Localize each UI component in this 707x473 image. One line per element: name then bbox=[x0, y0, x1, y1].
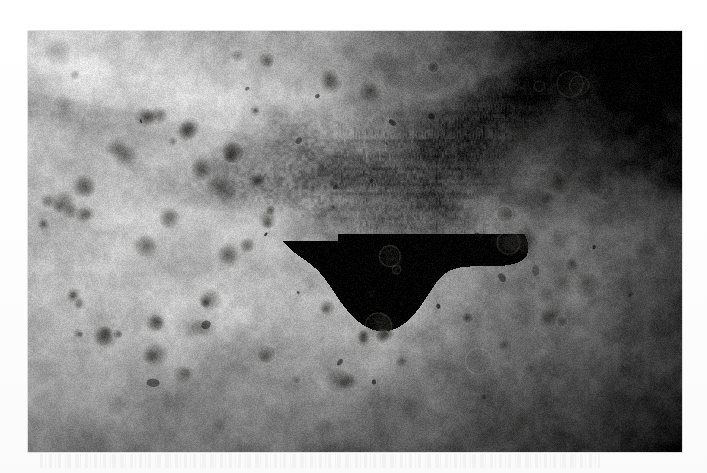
figure-caption bbox=[28, 456, 682, 470]
page-root bbox=[0, 0, 707, 473]
clinical-photograph bbox=[28, 31, 682, 452]
photograph-image bbox=[28, 31, 682, 452]
